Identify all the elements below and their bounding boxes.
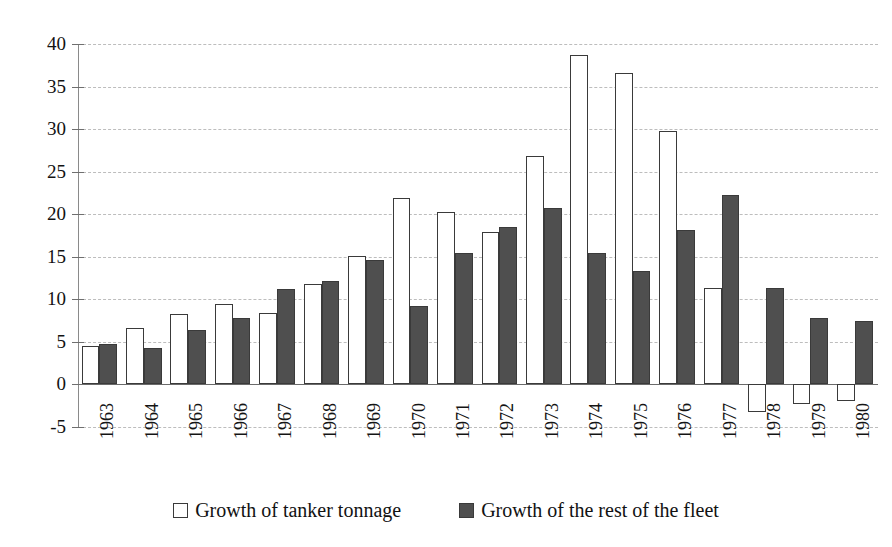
y-axis-tick bbox=[72, 214, 84, 215]
bar bbox=[659, 131, 677, 385]
bar bbox=[410, 306, 428, 384]
bar bbox=[277, 289, 295, 384]
y-axis-tick-label: 5 bbox=[57, 332, 67, 351]
y-axis-tick bbox=[72, 257, 84, 258]
y-axis-tick bbox=[72, 44, 84, 45]
legend-label: Growth of tanker tonnage bbox=[195, 500, 401, 520]
bar bbox=[633, 271, 651, 384]
bar bbox=[855, 321, 873, 385]
bar bbox=[793, 384, 811, 404]
x-axis-tick-label: 1975 bbox=[632, 403, 650, 439]
bar bbox=[393, 198, 411, 384]
y-axis-tick bbox=[72, 129, 84, 130]
bar bbox=[588, 253, 606, 384]
legend-entry-tanker-tonnage: Growth of tanker tonnage bbox=[173, 500, 401, 520]
y-axis-tick bbox=[72, 172, 84, 173]
bar-group bbox=[256, 44, 300, 427]
y-axis-tick-label: 40 bbox=[47, 34, 66, 53]
bar-group bbox=[522, 44, 566, 427]
bar bbox=[570, 55, 588, 384]
y-axis-tick-label: 25 bbox=[47, 162, 66, 181]
y-axis-tick bbox=[72, 427, 84, 428]
bar bbox=[188, 330, 206, 384]
x-axis-tick-label: 1967 bbox=[276, 403, 294, 439]
y-axis-tick bbox=[72, 384, 84, 385]
x-axis-tick-label: 1963 bbox=[98, 403, 116, 439]
y-axis-tick-label: 30 bbox=[47, 119, 66, 138]
bar-group bbox=[478, 44, 522, 427]
y-axis-tick-label: 10 bbox=[47, 289, 66, 308]
x-axis-tick-label: 1968 bbox=[321, 403, 339, 439]
plot-area bbox=[78, 44, 878, 427]
bar-group bbox=[389, 44, 433, 427]
bar bbox=[766, 288, 784, 384]
bar bbox=[482, 232, 500, 384]
legend-entry-rest-of-fleet: Growth of the rest of the fleet bbox=[459, 500, 719, 520]
bar-chart: 4035302520151050-5 196319641965196619671… bbox=[0, 0, 892, 547]
open-square-icon bbox=[173, 503, 188, 518]
bar-group bbox=[300, 44, 344, 427]
x-axis-tick-label: 1969 bbox=[365, 403, 383, 439]
bar-group bbox=[834, 44, 878, 427]
y-axis-tick-label: 15 bbox=[47, 247, 66, 266]
bar-group bbox=[122, 44, 166, 427]
bar-group bbox=[567, 44, 611, 427]
bar bbox=[615, 73, 633, 385]
bar-group bbox=[611, 44, 655, 427]
bar bbox=[233, 318, 251, 384]
bar bbox=[837, 384, 855, 401]
bar-group bbox=[745, 44, 789, 427]
bar bbox=[99, 344, 117, 385]
bar-group bbox=[78, 44, 122, 427]
bar-group bbox=[434, 44, 478, 427]
x-axis-tick-label: 1978 bbox=[765, 403, 783, 439]
x-axis-tick-label: 1970 bbox=[410, 403, 428, 439]
x-axis-tick-label: 1964 bbox=[143, 403, 161, 439]
bar bbox=[544, 208, 562, 384]
bar bbox=[810, 318, 828, 384]
bar bbox=[366, 260, 384, 384]
bar bbox=[677, 230, 695, 384]
y-axis-tick-label: -5 bbox=[50, 417, 66, 436]
chart-legend: Growth of tanker tonnage Growth of the r… bbox=[0, 500, 892, 520]
bar bbox=[455, 253, 473, 384]
x-axis-tick-label: 1974 bbox=[587, 403, 605, 439]
x-axis-tick-label: 1979 bbox=[810, 403, 828, 439]
y-axis-tick bbox=[72, 342, 84, 343]
x-axis-tick-label: 1965 bbox=[187, 403, 205, 439]
bar-group bbox=[167, 44, 211, 427]
x-axis-tick-label: 1966 bbox=[232, 403, 250, 439]
bar bbox=[499, 227, 517, 384]
bar bbox=[704, 288, 722, 384]
bar-group bbox=[211, 44, 255, 427]
bar bbox=[322, 281, 340, 384]
x-axis-tick-label: 1976 bbox=[676, 403, 694, 439]
bar bbox=[259, 313, 277, 384]
x-axis-tick-label: 1972 bbox=[498, 403, 516, 439]
bar bbox=[526, 156, 544, 384]
y-axis-tick bbox=[72, 87, 84, 88]
bar-group bbox=[345, 44, 389, 427]
bar-group bbox=[789, 44, 833, 427]
y-axis-tick-label: 35 bbox=[47, 77, 66, 96]
bar bbox=[82, 346, 100, 384]
bar-group bbox=[700, 44, 744, 427]
y-axis-tick-label: 0 bbox=[57, 374, 67, 393]
bar bbox=[126, 328, 144, 384]
x-axis-tick-label: 1971 bbox=[454, 403, 472, 439]
y-axis-labels: 4035302520151050-5 bbox=[0, 0, 66, 547]
x-axis-tick-label: 1977 bbox=[721, 403, 739, 439]
bar-group bbox=[656, 44, 700, 427]
bar bbox=[348, 256, 366, 385]
x-axis-tick-label: 1973 bbox=[543, 403, 561, 439]
bar bbox=[722, 195, 740, 384]
bar bbox=[170, 314, 188, 385]
bar bbox=[304, 284, 322, 384]
bar bbox=[437, 212, 455, 385]
filled-square-icon bbox=[459, 503, 474, 518]
legend-label: Growth of the rest of the fleet bbox=[481, 500, 719, 520]
y-axis-tick bbox=[72, 299, 84, 300]
bar bbox=[215, 304, 233, 384]
y-axis-tick-label: 20 bbox=[47, 204, 66, 223]
x-axis-tick-label: 1980 bbox=[854, 403, 872, 439]
